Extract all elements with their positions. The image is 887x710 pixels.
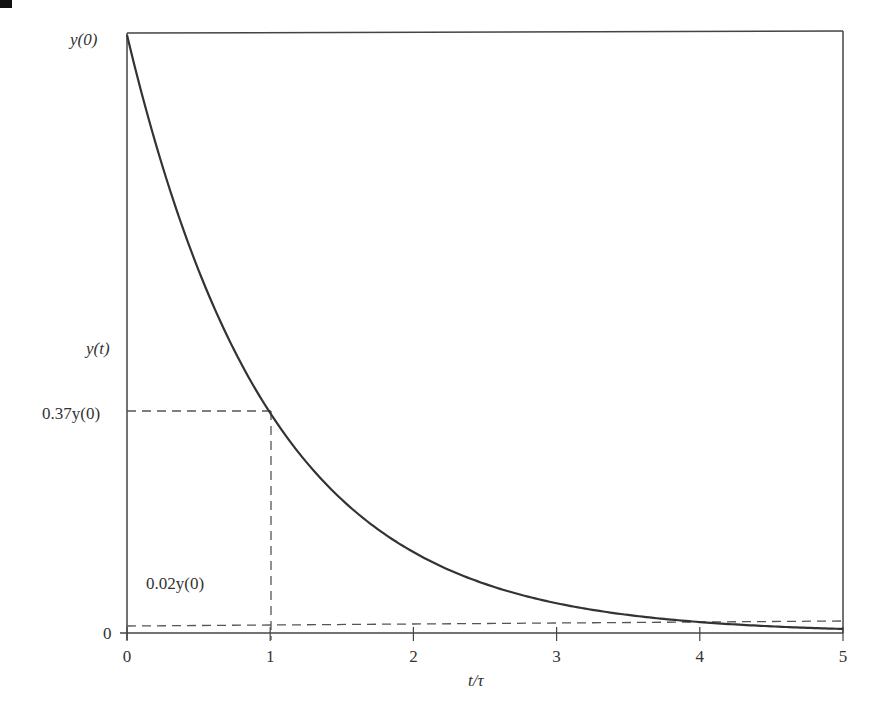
decay-curve [127,35,843,629]
label-zero: 0 [103,624,112,643]
x-ticks [127,627,843,641]
x-tick-label: 1 [266,647,275,666]
x-axis-label: t/τ [468,671,484,690]
decay-chart: 012345 y(0) y(t) 0.37y(0) 0.02y(0) 0 t/τ [0,0,887,710]
guide-lines [127,411,843,640]
x-tick-label: 0 [123,647,132,666]
label-037: 0.37y(0) [42,404,100,423]
label-002: 0.02y(0) [146,574,204,593]
label-yt: y(t) [84,339,110,358]
top-border [127,31,843,33]
label-y0: y(0) [68,30,98,49]
plot-frame [120,31,843,640]
x-tick-labels: 012345 [123,647,848,666]
x-tick-label: 4 [696,647,705,666]
x-tick-label: 2 [409,647,418,666]
x-tick-label: 3 [552,647,561,666]
x-tick-label: 5 [839,647,848,666]
